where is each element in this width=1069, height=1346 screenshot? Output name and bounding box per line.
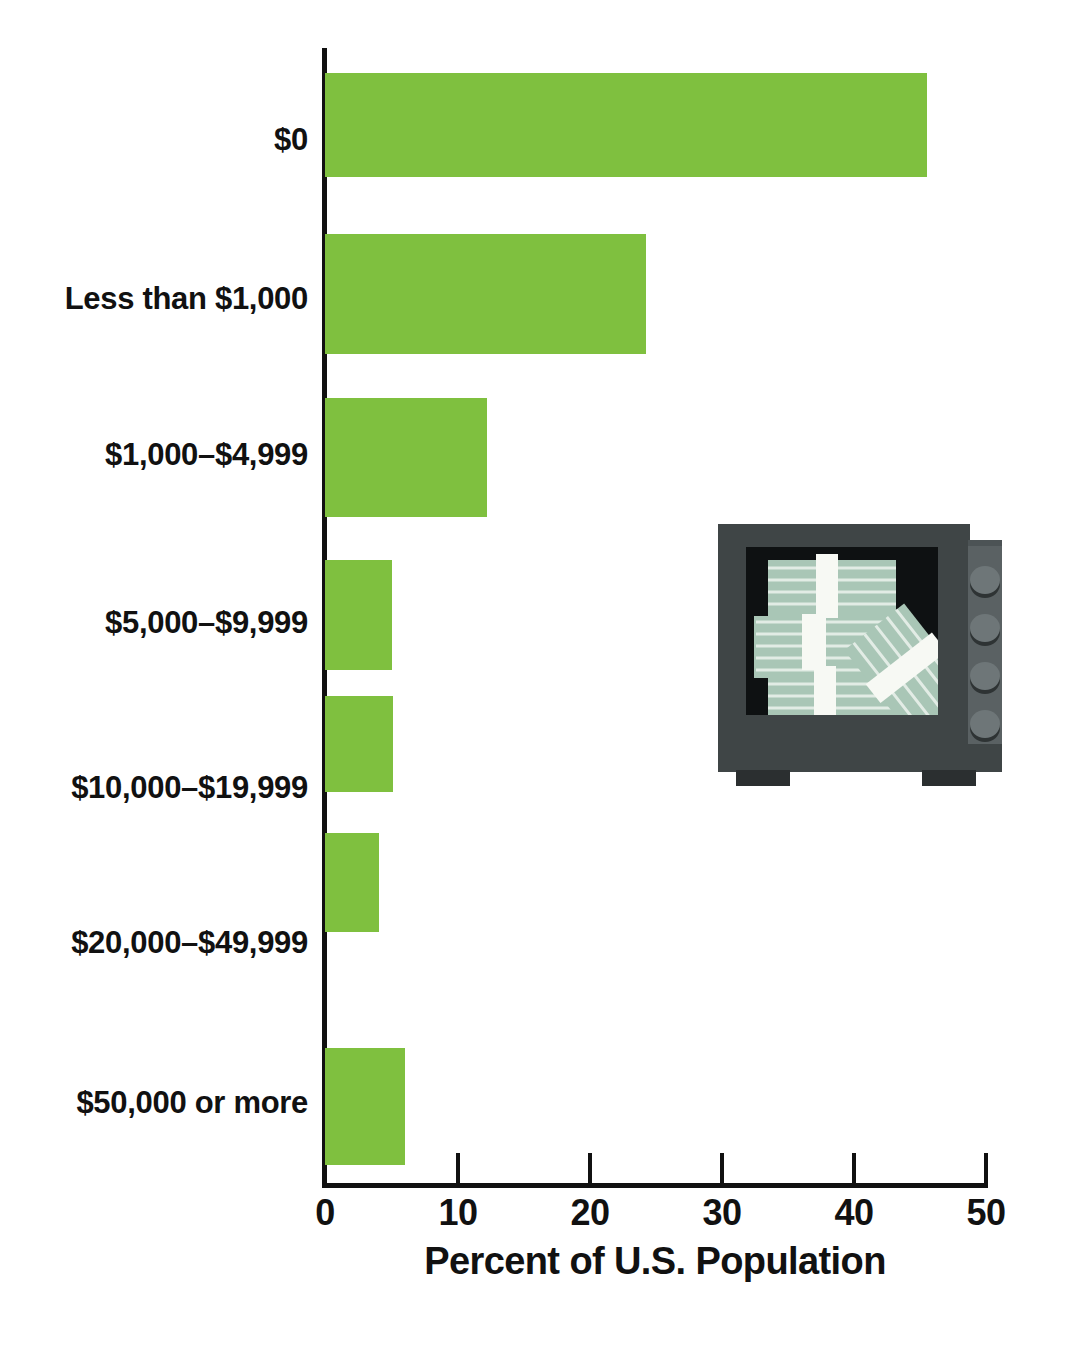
safe-base	[718, 744, 1002, 786]
x-axis-line	[322, 1183, 988, 1188]
x-axis-title: Percent of U.S. Population	[325, 1240, 985, 1283]
bar-1	[325, 234, 646, 354]
x-tick-10	[456, 1153, 460, 1183]
bar-0	[325, 73, 927, 177]
x-tick-label-40: 40	[814, 1192, 894, 1234]
bar-6	[325, 1048, 405, 1165]
x-tick-30	[720, 1153, 724, 1183]
safe-with-money-illustration	[710, 508, 1010, 793]
y-category-label-3: $5,000–$9,999	[0, 605, 308, 641]
y-category-label-1: Less than $1,000	[0, 281, 308, 317]
x-tick-label-30: 30	[682, 1192, 762, 1234]
y-category-label-6: $50,000 or more	[0, 1085, 308, 1121]
x-tick-label-10: 10	[418, 1192, 498, 1234]
safe-foot-right	[922, 770, 976, 786]
y-category-label-2: $1,000–$4,999	[0, 437, 308, 473]
x-tick-50	[984, 1153, 988, 1183]
knob-2	[970, 614, 1000, 642]
x-tick-label-50: 50	[946, 1192, 1026, 1234]
y-category-label-0: $0	[0, 122, 308, 158]
knob-3	[970, 662, 1000, 690]
y-category-label-4: $10,000–$19,999	[0, 770, 308, 806]
x-tick-40	[852, 1153, 856, 1183]
x-tick-20	[588, 1153, 592, 1183]
bar-3	[325, 560, 392, 670]
x-tick-label-20: 20	[550, 1192, 630, 1234]
bar-4	[325, 696, 393, 792]
knob-4	[970, 710, 1000, 738]
x-tick-label-0: 0	[285, 1192, 365, 1234]
bar-5	[325, 833, 379, 932]
safe-foot-left	[736, 770, 790, 786]
horizontal-bar-chart: 0 10 20 30 40 50 $0 Less than $1,000 $1,…	[0, 0, 1069, 1346]
y-category-label-5: $20,000–$49,999	[0, 925, 308, 961]
bar-2	[325, 398, 487, 517]
knob-1	[970, 566, 1000, 594]
